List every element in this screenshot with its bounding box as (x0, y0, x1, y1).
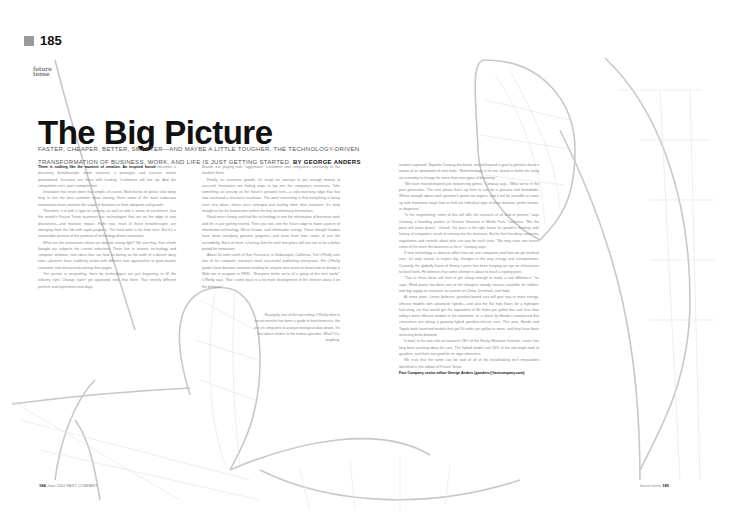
author-credit: Fast Company senior editor George Anders… (399, 370, 539, 376)
paragraph: About 50 miles north of San Francisco, i… (202, 252, 340, 290)
footer-left: 184 June 2002 FAST COMPANY (39, 483, 98, 488)
footer-right: future tense 185 (640, 483, 669, 488)
paragraph: "We have moved beyond just sequencing ge… (399, 181, 539, 212)
paragraph: readers captured. Squeals Conway disclos… (399, 162, 539, 181)
paragraph: Strangely, one of the top selling O'Reil… (250, 312, 340, 343)
paragraph: Innovation has never been that simple, o… (38, 189, 176, 208)
paragraph: Finally, as economic growth, it's tough … (202, 177, 340, 215)
paragraph: "Two or three ideas will start to get ch… (399, 275, 539, 294)
paragraph: Read more closely and find the technolog… (202, 214, 340, 252)
paragraph: What are the innovations where an ultima… (38, 240, 176, 271)
paragraph: "In the engineering, some of this will o… (399, 212, 539, 250)
section-kicker: future tense (33, 66, 52, 76)
folio-left: 184 (39, 483, 46, 488)
body-column-2-wrap: Strangely, one of the top selling O'Reil… (250, 312, 340, 343)
folio-right: 185 (662, 483, 669, 488)
paragraph: In total, in his own role as research CE… (399, 338, 539, 357)
lead-in: There is nothing like the moment of crea… (38, 165, 156, 169)
body-column-3: readers captured. Squeals Conway disclos… (399, 162, 539, 376)
paragraph: If new technology is about to affect how… (399, 250, 539, 275)
paragraph: At some point, Lovins believes, gasoline… (399, 294, 539, 338)
footer-left-label: June 2002 FAST COMPANY (47, 483, 98, 488)
paragraph: Therefore, it is with a type of curiosit… (38, 208, 176, 239)
body-column-1: There is nothing like the moment of crea… (38, 164, 176, 290)
square-bullet-icon (24, 36, 34, 46)
page-number-badge: 185 (24, 33, 62, 48)
page-number: 185 (40, 33, 62, 48)
paragraph: We trust that the same can be said of al… (399, 357, 539, 370)
paragraph: Boards are playing with "aggressive" cus… (202, 164, 340, 177)
paragraph: There is nothing like the moment of crea… (38, 164, 176, 189)
paragraph: The picture is unspooling: there by tech… (38, 271, 176, 290)
body-column-2: Boards are playing with "aggressive" cus… (202, 164, 340, 290)
section-kicker-line-2: tense (33, 71, 52, 76)
footer-right-label: future tense (640, 483, 661, 488)
